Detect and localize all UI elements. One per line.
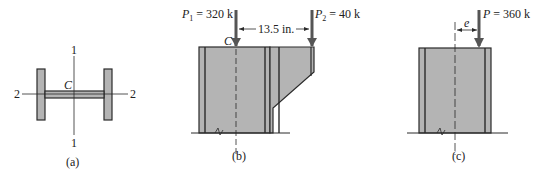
load-p1-label: P1 = 320 k <box>181 7 233 23</box>
column-diagrams: 1 1 2 2 C (a) P1 = 320 k P2 = 40 k 13.5 … <box>0 0 536 177</box>
distance-label: 13.5 in. <box>258 22 294 36</box>
axis1-top-label: 1 <box>71 43 77 57</box>
axis1-bottom-label: 1 <box>71 136 77 150</box>
centroid-label-a: C <box>64 78 73 92</box>
figure-b-column <box>191 10 317 155</box>
caption-a: (a) <box>66 155 79 169</box>
load-p-label: P = 360 k <box>482 7 530 21</box>
caption-b: (b) <box>232 149 246 163</box>
centroid-label-b: C <box>224 34 233 48</box>
axis2-left-label: 2 <box>14 87 20 101</box>
figure-a-section <box>22 56 128 135</box>
caption-c: (c) <box>452 149 465 163</box>
axis2-right-label: 2 <box>130 87 136 101</box>
eccentricity-label: e <box>464 16 470 30</box>
load-p2-label: P2 = 40 k <box>314 7 360 23</box>
figure-c-column <box>407 10 508 155</box>
